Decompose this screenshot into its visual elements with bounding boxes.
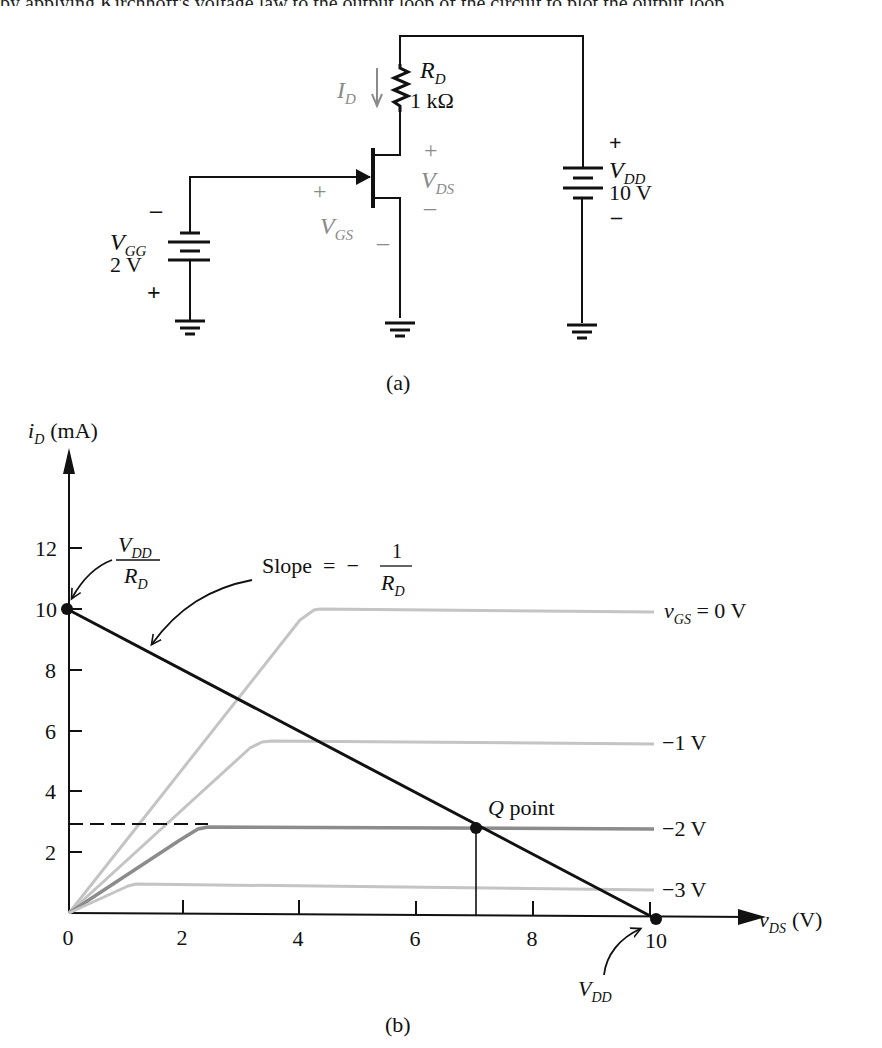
figure: ID RD 1 kΩ + VDS – + VGS – – VGG 2 V + +… [0, 0, 882, 1048]
curve-vgs-minus2 [69, 827, 654, 913]
svg-text:4: 4 [293, 926, 304, 951]
source-wire [374, 198, 400, 318]
vdd-annotation-arrow-icon [604, 929, 640, 975]
load-line-x-intercept [650, 913, 662, 925]
vds-plus: + [424, 137, 438, 163]
vdd-axis-label: VDD [578, 976, 612, 1005]
load-line-y-intercept [61, 603, 73, 615]
drain-wire [374, 112, 400, 155]
ground-icon [385, 323, 415, 336]
svg-text:10: 10 [35, 597, 57, 622]
vds-label: VDS [421, 167, 455, 197]
rd-value: 1 kΩ [410, 88, 454, 113]
x-tick-labels: 0 2 4 6 8 10 [63, 925, 668, 953]
q-point-label: Q point [488, 795, 555, 820]
resistor-rd-symbol [394, 64, 408, 112]
ground-icon [567, 325, 597, 338]
svg-text:2: 2 [45, 840, 56, 865]
svg-text:2: 2 [177, 925, 188, 950]
vdd-top-polarity: + [609, 130, 622, 155]
vgg-value: 2 V [110, 252, 142, 277]
vgg-bottom-polarity: + [147, 279, 161, 305]
caption-b: (b) [385, 1012, 411, 1037]
vgs-minus: – [376, 229, 390, 255]
curve-label-minus2: −2 V [662, 816, 707, 841]
ground-icon [175, 321, 205, 334]
vds-minus: – [423, 194, 437, 220]
gate-wire [190, 177, 370, 233]
vgs-plus: + [313, 178, 327, 204]
vdd-rd-annotation-arrow-icon [72, 560, 112, 598]
vgg-top-polarity: – [149, 197, 163, 223]
svg-text:6: 6 [410, 926, 421, 951]
svg-text:Slope = −: Slope = − [262, 553, 359, 578]
svg-text:12: 12 [35, 536, 57, 561]
slope-annotation-arrow-icon [152, 580, 252, 644]
rd-label: RD [419, 57, 446, 87]
q-point-marker [470, 822, 482, 834]
circuit-diagram [168, 36, 603, 338]
slope-annotation: Slope = − 1 RD [262, 540, 412, 599]
svg-text:4: 4 [45, 779, 56, 804]
vdd-value: 10 V [609, 180, 652, 205]
curve-vgs-minus3 [69, 884, 654, 913]
y-tick-labels: 2 4 6 8 10 12 [35, 536, 57, 865]
y-axis-arrow-icon [63, 448, 75, 474]
vgs-label: VGS [320, 213, 354, 243]
svg-text:VDD: VDD [118, 532, 152, 561]
vdd-bottom-polarity: – [610, 204, 623, 229]
curve-label-minus3: −3 V [662, 877, 707, 902]
svg-text:RD: RD [380, 570, 405, 599]
y-axis-label: iD(mA) [28, 418, 98, 447]
curve-label-vgs-0: vGS = 0 V [664, 598, 746, 627]
id-label: ID [336, 77, 356, 107]
chart: 2 4 6 8 10 12 0 2 4 6 8 10 [35, 448, 766, 975]
x-axis-label: vDS(V) [759, 907, 822, 936]
svg-text:0: 0 [63, 925, 74, 950]
load-line [67, 609, 656, 919]
curve-label-minus1: −1 V [662, 730, 707, 755]
svg-text:8: 8 [45, 658, 56, 683]
svg-text:6: 6 [45, 719, 56, 744]
svg-text:RD: RD [123, 563, 148, 592]
vdd-over-rd-annotation: VDD RD [116, 532, 160, 592]
caption-a: (a) [386, 370, 410, 395]
svg-text:10: 10 [645, 928, 667, 953]
svg-text:1: 1 [392, 540, 402, 562]
svg-text:8: 8 [527, 926, 538, 951]
gate-arrow-icon [356, 169, 371, 185]
current-arrow-icon [372, 68, 382, 106]
